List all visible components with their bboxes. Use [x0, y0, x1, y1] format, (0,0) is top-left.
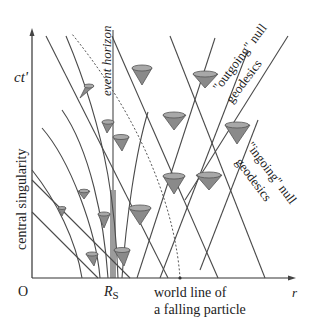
light-cone	[114, 248, 130, 267]
light-cone	[98, 212, 110, 228]
worldline-label-line1: world line of	[154, 285, 227, 300]
light-cone	[132, 65, 152, 85]
light-cone	[58, 207, 66, 217]
light-cone	[163, 112, 186, 130]
spacetime-diagram: ct' r O RS central singularity event hor…	[0, 0, 314, 330]
horizontal-axis-arrow-icon	[288, 276, 296, 281]
light-cone	[86, 252, 98, 266]
light-cone	[113, 135, 129, 152]
inner-curve	[32, 170, 82, 278]
light-cone	[80, 84, 94, 98]
light-cone	[225, 122, 250, 144]
central-singularity-label: central singularity	[14, 149, 29, 250]
falling-particle-worldline	[72, 34, 180, 278]
light-cone	[129, 205, 151, 225]
worldline-label-line2: a falling particle	[154, 302, 246, 317]
vertical-axis-arrow-icon	[30, 28, 35, 36]
rs-label: RS	[103, 284, 119, 301]
event-horizon-label: event horizon	[99, 26, 114, 96]
inner-outgoing-curves	[32, 36, 148, 278]
light-cone	[163, 173, 185, 194]
ct-axis-label: ct'	[14, 69, 29, 85]
worldline-start-dot	[178, 276, 181, 279]
origin-label: O	[18, 284, 28, 299]
light-cone	[196, 172, 222, 190]
light-cone	[102, 120, 114, 133]
r-axis-label: r	[292, 285, 298, 300]
